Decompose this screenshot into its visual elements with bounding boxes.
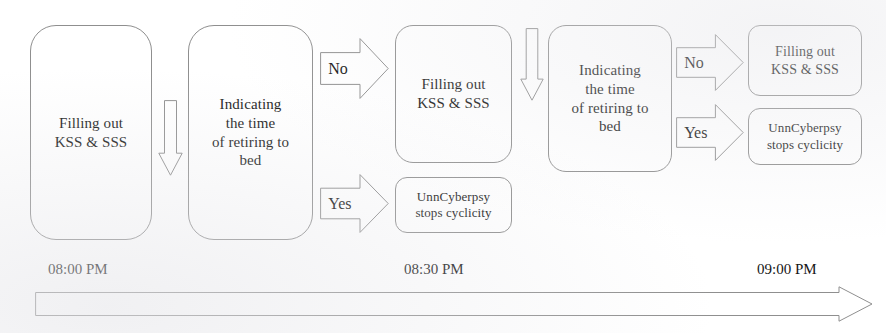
arrow-shape [521, 29, 543, 101]
box-filling-out-kss-sss-3: Filling outKSS & SSS [748, 25, 862, 96]
arrow-shape [677, 35, 744, 91]
timeline-axis-arrow [35, 286, 873, 322]
timeline-label-2: 08:30 PM [404, 261, 464, 278]
arrow-shape [321, 39, 389, 99]
arrow-no-1: No [320, 38, 389, 99]
arrow-shape [677, 105, 744, 161]
box-label: UnnCyberpsystops cyclicity [762, 120, 848, 153]
arrow-yes-2: Yes [676, 104, 744, 161]
timeline-arrow-shape [36, 287, 872, 321]
box-unncyberpsy-stops-cyclicity-2: UnnCyberpsystops cyclicity [748, 108, 862, 165]
arrow-shape [159, 101, 182, 176]
box-label: UnnCyberpsystops cyclicity [410, 189, 496, 222]
box-unncyberpsy-stops-cyclicity-1: UnnCyberpsystops cyclicity [395, 177, 512, 233]
box-indicating-time-of-retiring-1: Indicatingthe timeof retiring tobed [188, 25, 313, 240]
box-label: Indicatingthe timeof retiring tobed [566, 61, 653, 137]
timeline-label-1: 08:00 PM [48, 261, 108, 278]
box-label: Indicatingthe timeof retiring tobed [207, 95, 294, 171]
box-label: Filling outKSS & SSS [412, 75, 495, 113]
arrow-plain-1 [158, 100, 183, 176]
box-filling-out-kss-sss-1: Filling outKSS & SSS [30, 25, 152, 240]
box-filling-out-kss-sss-2: Filling outKSS & SSS [395, 25, 512, 163]
arrow-yes-1: Yes [320, 174, 389, 233]
box-indicating-time-of-retiring-2: Indicatingthe timeof retiring tobed [548, 25, 672, 172]
timeline-label-3: 09:00 PM [757, 261, 817, 278]
arrow-plain-2 [520, 28, 544, 101]
flowchart-canvas: Filling outKSS & SSS Indicatingthe timeo… [0, 0, 886, 333]
box-label: Filling outKSS & SSS [766, 43, 844, 78]
box-label: Filling outKSS & SSS [50, 114, 133, 152]
arrow-no-2: No [676, 34, 744, 91]
arrow-shape [321, 175, 389, 233]
